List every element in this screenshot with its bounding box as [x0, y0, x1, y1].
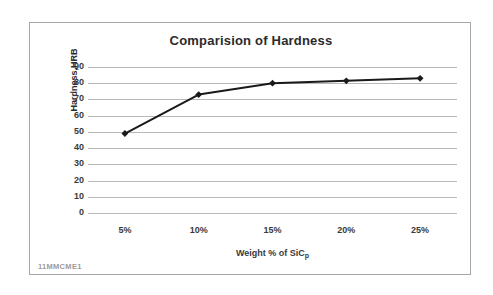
y-axis-tick-label: 30 [48, 159, 84, 168]
chart-frame: Comparision of Hardness Hardness,HRB 908… [29, 22, 471, 275]
x-axis-tick-labels: 5%10%15%20%25% [88, 225, 457, 239]
y-axis-tick-label: 70 [48, 94, 84, 103]
x-axis-tick-label: 15% [243, 225, 303, 235]
line-series [88, 67, 457, 213]
plot-area [88, 67, 457, 213]
data-point-marker [417, 75, 424, 82]
x-axis-tick-label: 25% [390, 225, 450, 235]
y-axis-tick-label: 90 [48, 62, 84, 71]
y-axis-tick-labels: 9080706050403020100 [44, 67, 84, 213]
x-axis-title-text: Weight % of SiC [236, 248, 305, 258]
y-axis-tick-label: 10 [48, 192, 84, 201]
data-point-marker [269, 80, 276, 87]
x-axis-tick-label: 5% [95, 225, 155, 235]
footer-note: 11MMCME1 [38, 262, 82, 271]
y-axis-tick-label: 20 [48, 176, 84, 185]
y-axis-tick-label: 0 [48, 208, 84, 217]
chart-title: Comparision of Hardness [30, 33, 472, 48]
y-axis-tick-label: 40 [48, 143, 84, 152]
y-axis-tick-label: 50 [48, 127, 84, 136]
gridline [88, 213, 457, 214]
x-axis-title-subscript: p [305, 252, 309, 259]
x-axis-tick-label: 10% [169, 225, 229, 235]
data-point-marker [343, 77, 350, 84]
x-axis-title: Weight % of SiCp [88, 248, 457, 259]
y-axis-tick-label: 80 [48, 78, 84, 87]
series-line [125, 78, 420, 133]
x-axis-tick-label: 20% [316, 225, 376, 235]
y-axis-tick-label: 60 [48, 111, 84, 120]
